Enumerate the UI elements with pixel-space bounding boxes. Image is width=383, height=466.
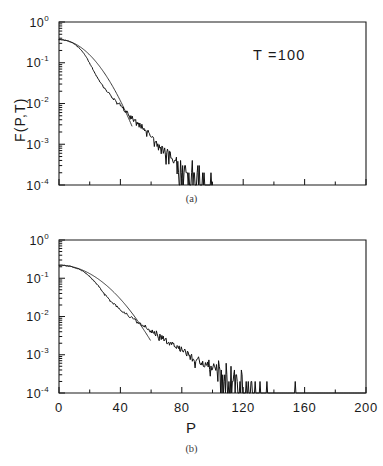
chart-panel-a: 10010-110-210-310-4 F(P,T) T =100 (a) <box>0 0 383 233</box>
y-tick-label: 10-1 <box>26 270 49 286</box>
x-tick-label: 40 <box>113 400 129 415</box>
series-gaussian-reference <box>59 265 150 340</box>
y-tick-label: 10-3 <box>26 136 49 152</box>
y-tick-label: 10-1 <box>26 54 49 70</box>
annotation-temperature-a: T =100 <box>253 47 305 63</box>
y-tick-label: 10-4 <box>26 177 49 193</box>
y-axis-title-a: F(P,T) <box>12 98 28 142</box>
y-tick-label: 10-3 <box>26 346 49 362</box>
y-tick-label: 10-4 <box>26 385 49 401</box>
x-tick-label: 160 <box>293 400 317 415</box>
x-axis-title: P <box>0 419 383 436</box>
figure-root: 10010-110-210-310-4 F(P,T) T =100 (a) 10… <box>0 0 383 466</box>
x-tick-label: 80 <box>174 400 190 415</box>
y-tick-label: 100 <box>29 14 49 30</box>
x-tick-label: 0 <box>55 400 63 415</box>
panel-caption-a: (a) <box>0 193 383 204</box>
y-tick-label: 100 <box>29 233 49 248</box>
panel-caption-b: (b) <box>0 443 383 454</box>
x-tick-label: 120 <box>231 400 255 415</box>
y-tick-label: 10-2 <box>26 308 49 324</box>
series-measured-distribution <box>59 39 212 185</box>
y-tick-label: 10-2 <box>26 95 49 111</box>
x-tick-label: 200 <box>354 400 378 415</box>
series-gaussian-reference <box>59 40 132 126</box>
